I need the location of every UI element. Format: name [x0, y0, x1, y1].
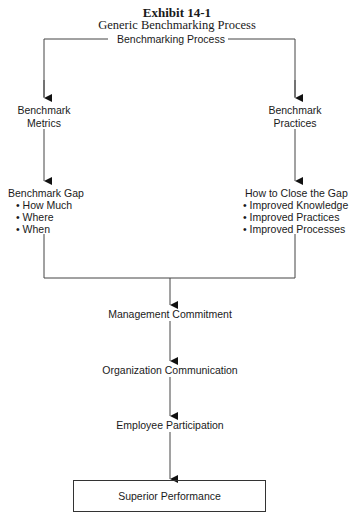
close-gap-bullet: • Improved Practices: [243, 211, 339, 223]
root-node: Benchmarking Process: [114, 33, 228, 45]
organization-communication: Organization Communication: [60, 364, 280, 376]
close-gap-bullet: • Improved Processes: [243, 223, 345, 235]
employee-participation: Employee Participation: [70, 419, 270, 431]
benchmarking-diagram: Exhibit 14-1 Generic Benchmarking Proces…: [0, 0, 354, 518]
benchmark-practices-line2: Practices: [255, 117, 335, 129]
management-commitment: Management Commitment: [70, 308, 270, 320]
connector-lines: [0, 0, 354, 518]
benchmark-metrics-line2: Metrics: [4, 117, 84, 129]
join-line: [44, 234, 295, 278]
benchmark-practices-line1: Benchmark: [255, 104, 335, 116]
close-gap-heading: How to Close the Gap: [245, 187, 348, 199]
right-branch-line: [225, 39, 295, 97]
superior-performance-label: Superior Performance: [118, 490, 221, 502]
gap-bullet: • When: [16, 223, 50, 235]
gap-bullet: • Where: [16, 211, 54, 223]
benchmark-metrics-line1: Benchmark: [4, 104, 84, 116]
close-gap-bullet: • Improved Knowledge: [243, 199, 348, 211]
left-branch-line: [44, 39, 108, 97]
gap-bullet: • How Much: [16, 199, 72, 211]
superior-performance-box: Superior Performance: [73, 480, 266, 512]
benchmark-gap-heading: Benchmark Gap: [8, 187, 84, 199]
